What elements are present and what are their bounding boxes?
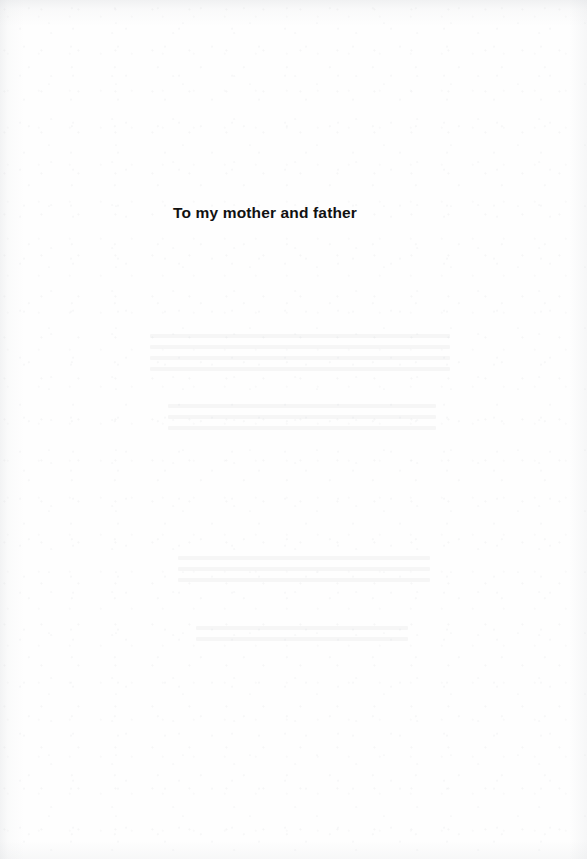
show-through-line xyxy=(178,567,430,571)
show-through-ghost-block xyxy=(178,556,430,589)
show-through-line xyxy=(150,356,450,360)
show-through-line xyxy=(150,345,450,349)
dedication-text: To my mother and father xyxy=(173,203,357,222)
show-through-line xyxy=(150,334,450,338)
scan-edge-vignette xyxy=(0,0,587,859)
show-through-line xyxy=(168,426,436,430)
show-through-line xyxy=(168,404,436,408)
show-through-line xyxy=(178,556,430,560)
paper-grain-texture xyxy=(0,0,587,859)
show-through-line xyxy=(178,578,430,582)
show-through-ghost-block xyxy=(168,404,436,437)
show-through-ghost-block xyxy=(150,334,450,378)
show-through-line xyxy=(150,367,450,371)
show-through-line xyxy=(196,626,408,630)
show-through-line xyxy=(168,415,436,419)
show-through-ghost-block xyxy=(196,626,408,648)
scanned-page: To my mother and father xyxy=(0,0,587,859)
show-through-line xyxy=(196,637,408,641)
